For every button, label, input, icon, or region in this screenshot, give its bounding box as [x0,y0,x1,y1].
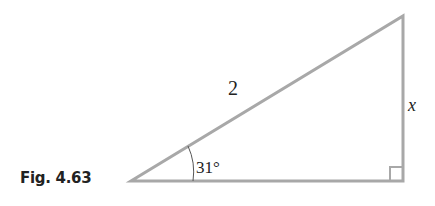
triangle-outline [131,16,403,181]
triangle [131,16,403,181]
right-triangle-diagram: 2 x 31° [0,0,435,206]
angle-label: 31° [196,158,220,177]
hypotenuse-label: 2 [228,77,238,99]
angle-arc [188,146,194,181]
side-x-label: x [407,95,416,115]
